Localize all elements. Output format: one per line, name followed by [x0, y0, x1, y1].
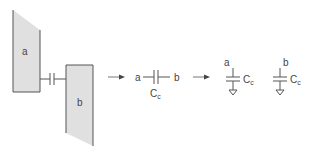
plate-b: b — [66, 65, 93, 146]
plate-coupling-capacitor — [40, 73, 66, 85]
plate-a-label: a — [22, 46, 28, 57]
grounded-capacitor-a: a Cc — [224, 57, 254, 95]
series-cap-label: Cc — [150, 88, 161, 100]
arrow-right-icon — [193, 75, 210, 80]
arrow-right-icon — [108, 75, 125, 80]
ground-icon — [229, 90, 237, 95]
node-b-label: b — [283, 57, 289, 68]
series-left-label: a — [135, 72, 141, 83]
coupling-capacitance-diagram: a b a b Cc a — [0, 0, 312, 155]
grounded-capacitor-b: b Cc — [273, 57, 301, 95]
cap-a-label: Cc — [243, 74, 254, 86]
plate-b-label: b — [77, 97, 83, 108]
ground-icon — [276, 90, 284, 95]
series-capacitor: a b Cc — [135, 70, 180, 100]
node-a-label: a — [224, 57, 230, 68]
series-right-label: b — [174, 72, 180, 83]
plate-a: a — [13, 10, 40, 92]
cap-b-label: Cc — [290, 74, 301, 86]
